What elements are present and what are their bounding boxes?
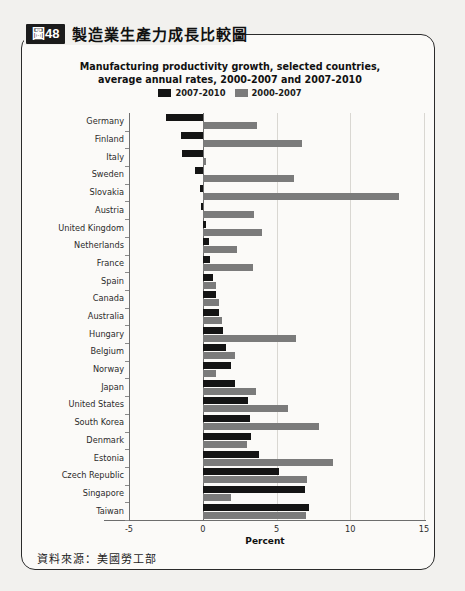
- bar-2000-2007-germany: [203, 122, 258, 129]
- bar-2007-2010-taiwan: [203, 504, 309, 511]
- chart-title: Manufacturing productivity growth, selec…: [40, 60, 420, 86]
- category-label-united-kingdom: United Kingdom: [4, 223, 124, 233]
- y-tick: [125, 272, 129, 273]
- y-tick: [125, 237, 129, 238]
- bar-2000-2007-estonia: [203, 459, 333, 466]
- y-axis-line: [129, 113, 130, 521]
- chart-title-line-1: Manufacturing productivity growth, selec…: [40, 60, 420, 73]
- category-label-singapore: Singapore: [4, 488, 124, 498]
- legend-label-2000-2007: 2000-2007: [252, 88, 302, 98]
- y-tick: [125, 485, 129, 486]
- bar-2007-2010-belgium: [203, 344, 227, 351]
- legend-item-2007-2010: 2007-2010: [158, 88, 225, 98]
- category-label-norway: Norway: [4, 364, 124, 374]
- bar-2000-2007-sweden: [203, 175, 294, 182]
- y-tick: [125, 201, 129, 202]
- legend-swatch-2007-2010: [158, 89, 171, 97]
- figure-caption-chinese: 製造業生產力成長比較圖: [72, 23, 248, 44]
- bar-2007-2010-japan: [203, 380, 235, 387]
- bar-2007-2010-united-kingdom: [203, 221, 206, 228]
- category-label-hungary: Hungary: [4, 329, 124, 339]
- bar-2007-2010-sweden: [195, 167, 202, 174]
- y-tick: [125, 131, 129, 132]
- y-tick: [125, 396, 129, 397]
- figure-tag: 圖48 製造業生產力成長比較圖: [26, 23, 248, 44]
- bar-2007-2010-germany: [166, 114, 203, 121]
- bar-2007-2010-finland: [181, 132, 203, 139]
- bar-2000-2007-denmark: [203, 441, 247, 448]
- y-tick: [125, 414, 129, 415]
- y-tick: [125, 432, 129, 433]
- x-tick-label--5: -5: [125, 524, 133, 534]
- category-label-czech-republic: Czech Republic: [4, 470, 124, 480]
- legend-swatch-2000-2007: [235, 89, 248, 97]
- bar-2007-2010-australia: [203, 309, 219, 316]
- category-label-australia: Australia: [4, 311, 124, 321]
- bar-2000-2007-japan: [203, 388, 256, 395]
- bar-2007-2010-united-states: [203, 397, 249, 404]
- bar-2007-2010-estonia: [203, 451, 259, 458]
- bar-2007-2010-slovakia: [200, 185, 203, 192]
- bar-2007-2010-france: [203, 256, 210, 263]
- category-label-slovakia: Slovakia: [4, 187, 124, 197]
- category-label-italy: Italy: [4, 152, 124, 162]
- chart-legend: 2007-2010 2000-2007: [40, 88, 420, 98]
- legend-item-2000-2007: 2000-2007: [235, 88, 302, 98]
- bar-2007-2010-spain: [203, 274, 213, 281]
- plot-area: [129, 113, 424, 520]
- source-note: 資料來源：美國勞工部: [37, 550, 157, 566]
- x-tick-label-15: 15: [419, 524, 429, 534]
- x-axis-title: Percent: [104, 536, 426, 546]
- gridline-15: [424, 113, 425, 520]
- figure-number-badge: 圖48: [26, 24, 65, 44]
- bar-2000-2007-united-states: [203, 405, 289, 412]
- bar-2000-2007-norway: [203, 370, 216, 377]
- category-label-estonia: Estonia: [4, 453, 124, 463]
- category-label-germany: Germany: [4, 116, 124, 126]
- category-label-belgium: Belgium: [4, 346, 124, 356]
- bar-2007-2010-austria: [201, 203, 202, 210]
- bar-2000-2007-italy: [203, 158, 206, 165]
- bar-2007-2010-south-korea: [203, 415, 250, 422]
- y-tick: [125, 184, 129, 185]
- bar-2000-2007-france: [203, 264, 253, 271]
- bar-2000-2007-singapore: [203, 494, 231, 501]
- bar-2007-2010-netherlands: [203, 238, 209, 245]
- y-tick: [125, 308, 129, 309]
- bar-2007-2010-denmark: [203, 433, 252, 440]
- y-tick: [125, 148, 129, 149]
- bar-2007-2010-norway: [203, 362, 231, 369]
- legend-label-2007-2010: 2007-2010: [175, 88, 225, 98]
- bar-2000-2007-belgium: [203, 352, 235, 359]
- bar-2000-2007-australia: [203, 317, 222, 324]
- bar-2000-2007-czech-republic: [203, 476, 308, 483]
- bar-2007-2010-hungary: [203, 327, 224, 334]
- bar-2000-2007-united-kingdom: [203, 229, 262, 236]
- category-label-denmark: Denmark: [4, 435, 124, 445]
- chart-title-line-2: average annual rates, 2000-2007 and 2007…: [40, 73, 420, 86]
- y-tick: [125, 219, 129, 220]
- category-label-austria: Austria: [4, 205, 124, 215]
- y-tick: [125, 325, 129, 326]
- bar-2007-2010-singapore: [203, 486, 305, 493]
- y-tick: [125, 255, 129, 256]
- category-label-finland: Finland: [4, 134, 124, 144]
- y-tick: [125, 449, 129, 450]
- bar-2007-2010-canada: [203, 291, 216, 298]
- category-label-sweden: Sweden: [4, 169, 124, 179]
- y-tick: [125, 502, 129, 503]
- x-tick-label-5: 5: [274, 524, 279, 534]
- gridline-10: [350, 113, 351, 520]
- bar-2000-2007-taiwan: [203, 512, 306, 519]
- category-label-france: France: [4, 258, 124, 268]
- bar-2007-2010-czech-republic: [203, 468, 280, 475]
- category-label-canada: Canada: [4, 293, 124, 303]
- y-tick: [125, 290, 129, 291]
- category-label-spain: Spain: [4, 276, 124, 286]
- y-tick: [125, 343, 129, 344]
- category-label-taiwan: Taiwan: [4, 506, 124, 516]
- y-tick: [125, 520, 129, 521]
- bar-2000-2007-canada: [203, 299, 219, 306]
- y-tick: [125, 467, 129, 468]
- bar-2000-2007-hungary: [203, 335, 296, 342]
